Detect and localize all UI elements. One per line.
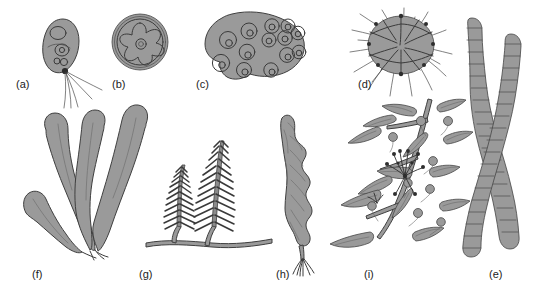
panel-label-a: (a): [16, 78, 29, 90]
panel-g-feather-alga: [146, 141, 272, 248]
panel-label-f: (f): [32, 268, 42, 280]
panel-c-cell-colony: [205, 12, 306, 79]
panel-i-sargassum-branch: [330, 99, 473, 247]
panel-label-i: (i): [364, 268, 374, 280]
holdfast-rhizoids: [293, 259, 314, 276]
panel-b-coccoid-cell: [112, 14, 168, 70]
panel-label-b: (b): [112, 78, 125, 90]
panel-label-h: (h): [276, 268, 289, 280]
panel-h-ruffled-blade: [281, 115, 314, 276]
panel-label-d: (d): [358, 78, 371, 90]
panel-a-flagellate-cell: [43, 19, 102, 108]
figure-illustration-canvas: .fl { fill: #9a9a9a; } .fl-d { fill: #8c…: [0, 0, 539, 289]
panel-label-g: (g): [139, 268, 152, 280]
panel-label-c: (c): [196, 78, 209, 90]
panel-f-kelp-thallus: [24, 105, 148, 260]
panel-e-filamentous-alga: [463, 18, 521, 257]
figure-container: .fl { fill: #9a9a9a; } .fl-d { fill: #8c…: [0, 0, 539, 289]
panel-label-e: (e): [489, 268, 502, 280]
